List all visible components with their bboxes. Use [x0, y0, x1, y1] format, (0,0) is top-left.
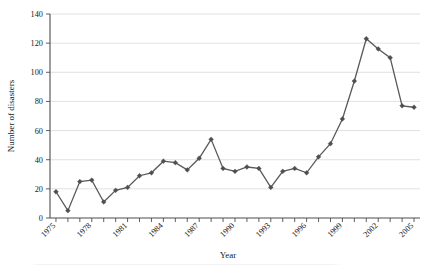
- series-line: [56, 39, 414, 211]
- y-axis: [46, 14, 50, 218]
- y-tick-label: 140: [31, 10, 43, 19]
- data-point-marker: [89, 178, 94, 183]
- page-edge-artifact: [0, 264, 430, 265]
- x-tick-label: 1978: [75, 221, 93, 239]
- x-axis: [50, 218, 420, 222]
- y-tick-label: 0: [39, 214, 43, 223]
- y-tick-label: 80: [35, 97, 43, 106]
- data-point-marker: [292, 166, 297, 171]
- data-point-marker: [77, 179, 82, 184]
- data-point-marker: [352, 79, 357, 84]
- data-point-marker: [400, 103, 405, 108]
- data-point-markers: [54, 36, 417, 213]
- y-tick-label: 20: [35, 185, 43, 194]
- x-tick-label: 1987: [183, 221, 201, 239]
- x-tick-label: 1984: [147, 220, 166, 239]
- x-tick-label: 1996: [290, 221, 308, 239]
- data-point-marker: [245, 165, 250, 170]
- y-tick-labels: 020406080100120140: [31, 10, 43, 223]
- x-tick-label: 1981: [111, 221, 129, 239]
- y-tick-label: 40: [35, 156, 43, 165]
- gridlines: [50, 14, 420, 189]
- data-series-line: [56, 39, 414, 211]
- x-tick-labels: 1975197819811984198719901993199619992002…: [39, 220, 415, 239]
- x-tick-label: 1993: [254, 221, 272, 239]
- x-tick-label: 1999: [326, 221, 344, 239]
- chart-canvas: 020406080100120140 197519781981198419871…: [0, 0, 430, 269]
- x-axis-title: Year: [220, 250, 237, 260]
- x-tick-label: 2005: [397, 221, 415, 239]
- disaster-line-chart: 020406080100120140 197519781981198419871…: [0, 0, 430, 269]
- data-point-marker: [233, 169, 238, 174]
- data-point-marker: [340, 117, 345, 122]
- x-tick-label: 2002: [362, 221, 380, 239]
- x-tick-label: 1990: [218, 221, 236, 239]
- x-tick-label: 1975: [39, 221, 57, 239]
- y-axis-title: Number of disasters: [6, 79, 16, 152]
- y-tick-label: 120: [31, 39, 43, 48]
- y-tick-label: 100: [31, 68, 43, 77]
- data-point-marker: [412, 105, 417, 110]
- y-tick-label: 60: [35, 127, 43, 136]
- data-point-marker: [221, 166, 226, 171]
